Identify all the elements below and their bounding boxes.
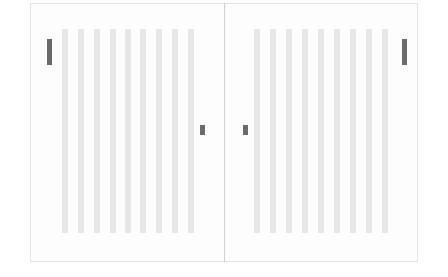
left-stripe-2 xyxy=(78,29,84,233)
left-stripe-6 xyxy=(140,29,146,233)
left-stripe-1 xyxy=(62,29,68,233)
right-stripe-4 xyxy=(302,29,308,233)
right-stripe-5 xyxy=(318,29,324,233)
left-stripe-3 xyxy=(94,29,100,233)
right-stripe-9 xyxy=(382,29,388,233)
right-stripe-3 xyxy=(286,29,292,233)
right-stripe-8 xyxy=(366,29,372,233)
left-tall-marker xyxy=(47,39,52,65)
right-stripe-2 xyxy=(270,29,276,233)
right-stripe-7 xyxy=(350,29,356,233)
left-stripe-4 xyxy=(110,29,116,233)
right-stripe-6 xyxy=(334,29,340,233)
left-stripe-7 xyxy=(156,29,162,233)
left-stripe-5 xyxy=(125,29,131,233)
left-stripe-8 xyxy=(172,29,178,233)
panel-divider xyxy=(224,3,225,262)
right-tall-marker xyxy=(402,39,407,65)
right-stripe-1 xyxy=(254,29,260,233)
left-small-marker xyxy=(200,125,205,135)
left-stripe-9 xyxy=(188,29,194,233)
right-small-marker xyxy=(243,125,248,135)
